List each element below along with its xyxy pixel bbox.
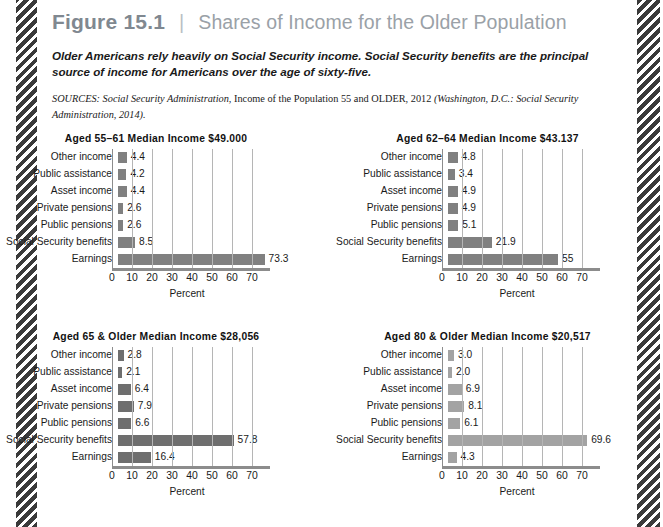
category-label: Public pensions: [330, 418, 448, 428]
bar-value-label: 3.4: [459, 168, 473, 180]
x-tick-label: 0: [439, 471, 445, 481]
bar-value-label: 8.5: [139, 236, 153, 248]
category-label: Asset income: [330, 186, 448, 196]
bar-track: 2.8: [118, 347, 268, 364]
x-tick-label: 40: [186, 471, 198, 481]
category-label: Asset income: [0, 384, 118, 394]
bar: [118, 203, 123, 214]
bar-value-label: 8.1: [468, 400, 482, 412]
chart-title: Aged 62–64 Median Income $43.137: [330, 128, 663, 149]
bar-value-label: 4.4: [131, 185, 145, 197]
bar: [448, 452, 457, 463]
bar-value-label: 4.9: [462, 202, 476, 214]
bar-row: Public assistance4.2: [0, 166, 330, 183]
x-tick-label: 50: [206, 471, 218, 481]
x-tick-label: 40: [516, 273, 528, 283]
sources-publication: Income of the Population 55 and OLDER, 2…: [231, 93, 431, 104]
bar-value-label: 2.6: [127, 202, 141, 214]
bar-row: Private pensions2.6: [0, 200, 330, 217]
bar-track: 3.0: [448, 347, 598, 364]
x-tick-label: 60: [556, 471, 568, 481]
bar-track: 4.3: [448, 449, 598, 466]
bar-chart-aged-80-older: Aged 80 & Older Median Income $20,517Oth…: [330, 326, 663, 524]
plot-area: Other income4.4Public assistance4.2Asset…: [0, 149, 330, 268]
bar-track: 4.9: [448, 183, 598, 200]
bar-value-label: 6.1: [464, 417, 478, 429]
chart-cell-0: Aged 55–61 Median Income $49.000Other in…: [0, 128, 330, 326]
category-label: Other income: [0, 152, 118, 162]
category-label: Social Security benefits: [330, 237, 448, 247]
bar-row: Other income4.4: [0, 149, 330, 166]
bar-row: Earnings55: [330, 251, 663, 268]
bar-row: Earnings4.3: [330, 449, 663, 466]
x-axis-title: Percent: [112, 288, 262, 299]
bar-value-label: 4.8: [462, 151, 476, 163]
bar-value-label: 2.1: [126, 366, 140, 378]
category-label: Earnings: [0, 452, 118, 462]
bar: [118, 367, 122, 378]
bar-value-label: 6.4: [135, 383, 149, 395]
category-label: Social Security benefits: [0, 435, 118, 445]
chart-title: Aged 80 & Older Median Income $20,517: [330, 326, 663, 347]
x-tick-label: 70: [576, 471, 588, 481]
bar-track: 6.6: [118, 415, 268, 432]
x-tick-label: 70: [246, 273, 258, 283]
bar-row: Social Security benefits57.8: [0, 432, 330, 449]
category-label: Private pensions: [0, 401, 118, 411]
bar-row: Asset income4.9: [330, 183, 663, 200]
x-tick-label: 50: [536, 273, 548, 283]
x-tick-label: 30: [496, 471, 508, 481]
x-tick-labels: 010203040506070: [112, 271, 262, 286]
bar: [118, 435, 234, 446]
chart-title: Aged 65 & Older Median Income $28,056: [0, 326, 330, 347]
x-tick-label: 60: [226, 471, 238, 481]
plot-area: Other income2.8Public assistance2.1Asset…: [0, 347, 330, 466]
bar-track: 2.0: [448, 364, 598, 381]
bar-track: 8.1: [448, 398, 598, 415]
bar: [118, 152, 127, 163]
x-tick-label: 20: [476, 471, 488, 481]
charts-row-bottom: Aged 65 & Older Median Income $28,056Oth…: [0, 326, 663, 524]
bar: [448, 186, 458, 197]
x-tick-label: 10: [456, 471, 468, 481]
bar-row: Social Security benefits21.9: [330, 234, 663, 251]
bar-value-label: 2.6: [127, 219, 141, 231]
category-label: Other income: [0, 350, 118, 360]
bar-row: Other income4.8: [330, 149, 663, 166]
bar-value-label: 4.9: [462, 185, 476, 197]
category-label: Public pensions: [0, 418, 118, 428]
bar-row: Public assistance2.1: [0, 364, 330, 381]
bar-value-label: 7.9: [138, 400, 152, 412]
bar-chart-aged-62-64: Aged 62–64 Median Income $43.137Other in…: [330, 128, 663, 326]
bar-track: 6.4: [118, 381, 268, 398]
bar-chart-aged-65-older: Aged 65 & Older Median Income $28,056Oth…: [0, 326, 330, 524]
x-tick-label: 0: [109, 471, 115, 481]
bar-track: 8.5: [118, 234, 268, 251]
bar-value-label: 6.6: [135, 417, 149, 429]
bar-value-label: 2.0: [456, 366, 470, 378]
bar: [118, 418, 131, 429]
bar-track: 4.4: [118, 149, 268, 166]
category-label: Public pensions: [0, 220, 118, 230]
bar-value-label: 69.6: [591, 434, 611, 446]
x-tick-label: 70: [576, 273, 588, 283]
bar-track: 4.4: [118, 183, 268, 200]
category-label: Asset income: [330, 384, 448, 394]
bar-track: 6.1: [448, 415, 598, 432]
bar-track: 57.8: [118, 432, 268, 449]
x-tick-label: 40: [186, 273, 198, 283]
bar-value-label: 4.2: [130, 168, 144, 180]
x-tick-label: 20: [476, 273, 488, 283]
bar-track: 2.1: [118, 364, 268, 381]
bar-row: Public assistance3.4: [330, 166, 663, 183]
bar-row: Private pensions4.9: [330, 200, 663, 217]
sources-agency: Social Security Administration,: [100, 93, 231, 104]
bar-row: Public pensions6.1: [330, 415, 663, 432]
category-label: Earnings: [330, 254, 448, 264]
category-label: Public assistance: [0, 169, 118, 179]
charts-row-top: Aged 55–61 Median Income $49.000Other in…: [0, 128, 663, 326]
bar-row: Public pensions6.6: [0, 415, 330, 432]
category-label: Asset income: [0, 186, 118, 196]
bar-track: 3.4: [448, 166, 598, 183]
figure-number: Figure 15.1: [52, 10, 165, 34]
